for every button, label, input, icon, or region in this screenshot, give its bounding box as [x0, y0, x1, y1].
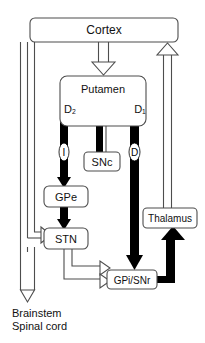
gpi-to-thalamus-elbow: [157, 236, 175, 283]
thalamus-to-cortex-arrowhead: [157, 43, 178, 55]
cortex-to-stn-branch: [35, 42, 42, 232]
direct-pathway-badge-label: D: [131, 147, 138, 158]
output-label-spinal-cord: Spinal cord: [12, 320, 67, 332]
node-thalamus-label: Thalamus: [148, 213, 192, 224]
direct-pathway-arrowhead: [126, 255, 143, 270]
receptor-label-d1: D₁: [134, 103, 146, 115]
receptor-label-d2: D₂: [64, 103, 76, 115]
node-snc-label: SNc: [92, 156, 113, 168]
basal-ganglia-diagram: I D Cortex Putamen D₂ D₁ SNc GPe: [0, 0, 205, 343]
node-putamen-label: Putamen: [81, 83, 125, 95]
stn-to-gpi-line-upper: [72, 249, 100, 266]
indirect-pathway-badge-label: I: [63, 147, 66, 158]
direct-pathway-shaft: [130, 121, 139, 257]
node-gpe-label: GPe: [55, 191, 77, 203]
diagram-canvas: I D Cortex Putamen D₂ D₁ SNc GPe: [0, 0, 205, 343]
cortex-to-brainstem-arrowhead: [21, 290, 35, 302]
output-label-brainstem: Brainstem: [12, 307, 62, 319]
gpe-to-stn-shaft: [60, 207, 68, 220]
node-cortex-label: Cortex: [86, 23, 121, 37]
cortex-to-putamen-arrowhead: [92, 62, 115, 75]
node-stn-label: STN: [55, 233, 77, 245]
stn-to-gpi-line-lower: [64, 249, 100, 279]
node-gpi-snr-label: GPi/SNr: [114, 275, 151, 286]
